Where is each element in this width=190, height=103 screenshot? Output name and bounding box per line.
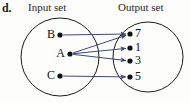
output-node-label-5: 5 [135,69,154,84]
mapping-diagram-figure: d. Input set Output set BAC7135 [0,0,190,103]
dot-3 [127,58,132,63]
diagram-canvas [0,0,190,103]
dot-A [67,51,72,56]
dot-1 [127,45,132,50]
input-node-label-A: A [46,46,65,61]
arrow-A-to-1 [73,48,126,53]
element-dots [57,31,132,79]
arrow-A-to-3 [73,54,126,60]
dot-B [57,32,62,37]
dot-5 [127,74,132,79]
output-node-label-3: 3 [135,53,154,68]
input-node-label-C: C [36,68,55,83]
dot-7 [127,31,132,36]
arrow-A-to-7 [73,35,126,53]
arrow-C-to-5 [63,76,126,77]
input-node-label-B: B [36,27,55,42]
dot-C [57,73,62,78]
output-node-label-7: 7 [135,26,154,41]
arrow-B-to-7 [63,34,126,35]
